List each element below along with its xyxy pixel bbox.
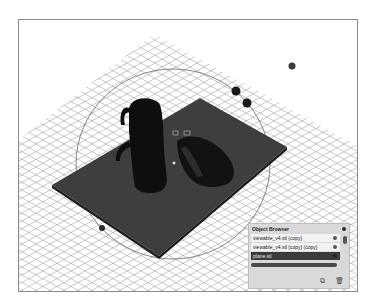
list-item-label: viewable_v4.stl (copy)	[253, 235, 302, 241]
scale-handle[interactable]	[99, 225, 105, 231]
eye-icon[interactable]	[333, 254, 337, 258]
close-icon[interactable]	[342, 227, 346, 231]
list-item-label: plane.stl	[253, 253, 272, 259]
light-source-marker[interactable]	[289, 63, 296, 70]
list-horizontal-scrollbar[interactable]	[251, 263, 337, 267]
object-browser-panel: Object Browser viewable_v4.stl (copy) vi…	[248, 223, 350, 289]
trash-icon[interactable]: 🗑	[335, 277, 342, 284]
rotation-handle-2[interactable]	[243, 99, 252, 108]
list-item-selected[interactable]: plane.stl	[251, 252, 340, 260]
list-item[interactable]: viewable_v4.stl (copy)	[251, 234, 340, 242]
pivot-point[interactable]	[172, 161, 176, 165]
object-browser-title: Object Browser	[252, 226, 289, 232]
eye-icon[interactable]	[333, 236, 337, 240]
list-item[interactable]: viewable_v4.stl (copy) (copy)	[251, 243, 340, 251]
eye-icon[interactable]	[333, 245, 337, 249]
duplicate-icon[interactable]: ⧉	[319, 277, 326, 284]
object-list: viewable_v4.stl (copy) viewable_v4.stl (…	[251, 234, 340, 261]
list-item-label: viewable_v4.stl (copy) (copy)	[253, 244, 317, 250]
rotation-handle-1[interactable]	[232, 87, 241, 96]
scrollbar-thumb[interactable]	[343, 236, 347, 244]
